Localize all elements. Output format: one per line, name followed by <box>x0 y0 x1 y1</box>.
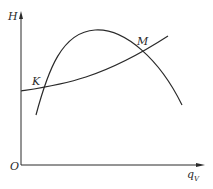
x-axis-label: qV <box>187 168 200 183</box>
origin-label: O <box>10 160 19 173</box>
point-m-label: M <box>136 35 149 48</box>
point-k-label: K <box>31 75 41 88</box>
x-axis <box>21 163 205 167</box>
x-axis-label-subscript: V <box>194 175 200 183</box>
y-axis-label: H <box>7 10 18 23</box>
x-axis-arrow-icon <box>196 163 205 167</box>
y-axis-arrow-icon <box>19 11 23 19</box>
diagram-canvas: H O qV K M <box>0 0 213 189</box>
x-axis-label-main: q <box>187 168 194 181</box>
pump-curve <box>36 30 182 115</box>
y-axis <box>19 11 23 165</box>
